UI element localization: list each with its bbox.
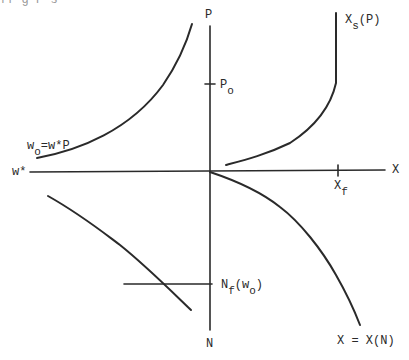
nf-w0-label: Nf(wo) [221,279,263,291]
w0-equation-label: wo=w*P [27,140,70,152]
xs-p-label: Xs(P) [345,14,380,26]
p-axis-label: P [205,9,212,21]
p0-label: Po [220,79,234,91]
curve-lower-left [48,196,191,310]
w-star-label: w* [12,166,26,178]
x-of-n-label: X = X(N) [337,335,395,347]
cropped-caption-fragment: ff g P s [0,0,58,7]
n-axis-label: N [206,338,213,350]
curve-xs-p [226,13,336,165]
curve-w0-wstar-p [37,24,192,158]
curve-x-of-n [210,172,360,325]
x-axis-label: X [392,164,399,176]
xf-label: Xf [334,180,348,192]
horizontal-axis-x [30,170,385,172]
